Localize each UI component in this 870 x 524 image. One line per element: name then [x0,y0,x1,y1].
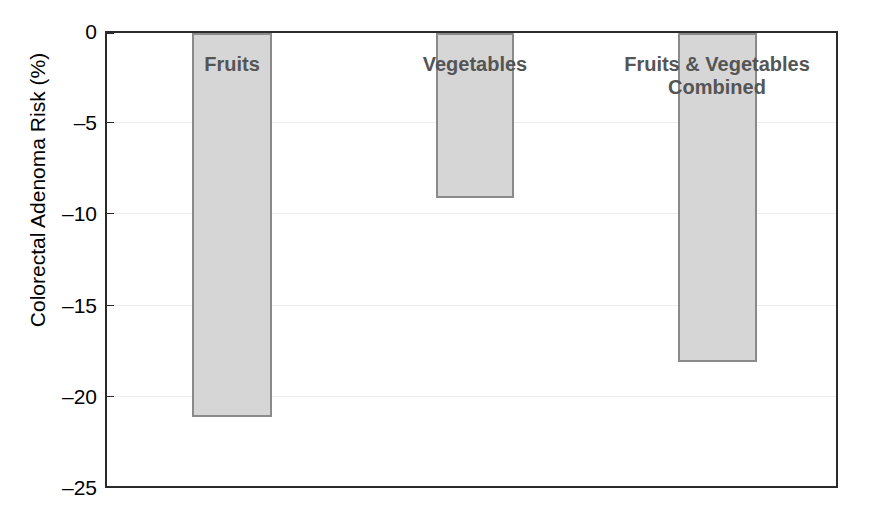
bar-chart-figure: 0 –5 –10 –15 –20 –25 Colorectal Adenoma … [0,0,870,524]
bar-label-line: Fruits & Vegetables [597,53,837,76]
y-axis-tick-label: –5 [74,112,97,133]
y-axis-tick-mark [107,305,114,306]
plot-area: Fruits Vegetables Fruits & Vegetables Co… [105,31,838,488]
y-axis-tick-mark [107,213,114,214]
y-axis-title: Colorectal Adenoma Risk (%) [26,0,50,380]
y-axis-tick-mark [107,396,114,397]
bar-label-fruits-vegetables-combined: Fruits & Vegetables Combined [597,53,837,99]
bar-label-fruits: Fruits [152,53,312,76]
bar-label-line: Combined [597,76,837,99]
bar-fruits[interactable] [192,33,272,417]
y-axis-tick-label: –15 [62,294,97,315]
y-axis-tick-mark [107,487,114,488]
y-axis-tick-label: –10 [62,203,97,224]
bar-label-vegetables: Vegetables [375,53,575,76]
y-axis-tick-label: –20 [62,385,97,406]
bar-label-line: Vegetables [423,53,528,75]
y-axis-tick-mark [107,122,114,123]
y-axis-tick-label: –25 [62,477,97,498]
bar-label-line: Fruits [204,53,260,75]
y-axis-tick-label: 0 [85,21,97,42]
y-axis-tick-mark [107,33,114,34]
